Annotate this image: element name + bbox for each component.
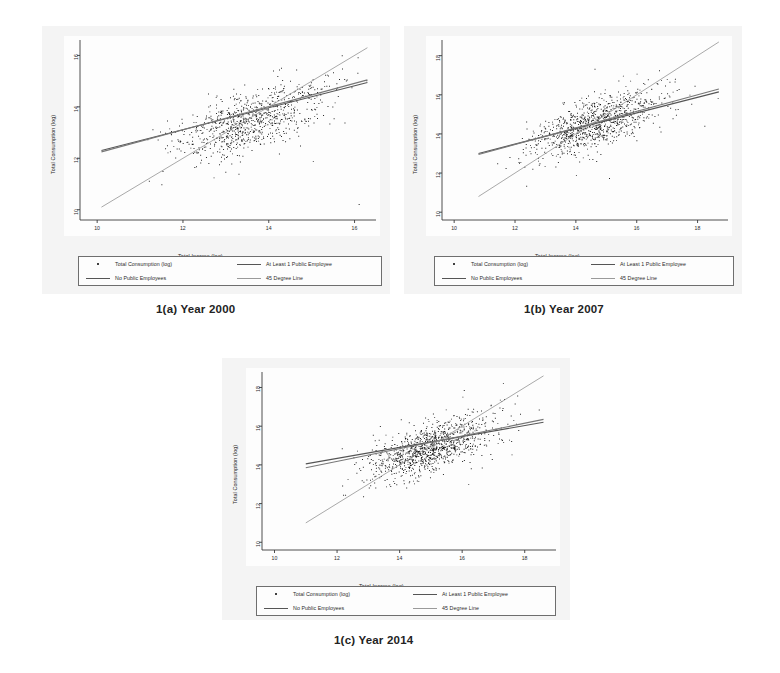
x-tick-label: 12 bbox=[180, 225, 186, 231]
legend-label: At Least 1 Public Employee bbox=[620, 261, 686, 267]
figure-panel-1a: Total Consumption (log) Total Income (lo… bbox=[42, 26, 390, 294]
x-tick-label: 14 bbox=[266, 225, 272, 231]
legend-item-45-degree-line: 45 Degree Line bbox=[406, 605, 555, 612]
scatter-points bbox=[497, 69, 718, 187]
x-tick-label: 18 bbox=[695, 225, 701, 231]
legend-item-at-least-1-public-employee: At Least 1 Public Employee bbox=[584, 261, 733, 268]
trend-line bbox=[479, 42, 719, 197]
solid-line-icon bbox=[590, 261, 616, 268]
dot-marker-icon bbox=[85, 261, 111, 268]
plot-area-1a bbox=[64, 36, 380, 236]
legend-label: Total Consumption (log) bbox=[471, 261, 528, 267]
x-tick-label: 16 bbox=[634, 225, 640, 231]
legend-item-45-degree-line: 45 Degree Line bbox=[584, 275, 733, 282]
trend-line bbox=[101, 82, 367, 150]
solid-line-icon bbox=[263, 605, 289, 612]
trend-line bbox=[101, 48, 367, 207]
legend-label: 45 Degree Line bbox=[266, 275, 303, 281]
y-tick-label: 10 bbox=[73, 209, 79, 215]
legend-item-at-least-1-public-employee: At Least 1 Public Employee bbox=[406, 591, 555, 598]
solid-line-icon bbox=[236, 261, 262, 268]
legend-label: Total Consumption (log) bbox=[293, 591, 350, 597]
legend-1c: Total Consumption (log) At Least 1 Publi… bbox=[256, 586, 556, 616]
x-tick-label: 18 bbox=[522, 555, 528, 561]
y-tick-label: 14 bbox=[435, 133, 441, 139]
light-line-icon bbox=[590, 275, 616, 282]
y-tick-label: 12 bbox=[435, 172, 441, 178]
trend-line bbox=[306, 376, 544, 523]
y-tick-label: 16 bbox=[435, 94, 441, 100]
dot-marker-icon bbox=[263, 591, 289, 598]
legend-label: No Public Employees bbox=[471, 275, 522, 281]
y-axis-label-1c: Total Consumption (log) bbox=[232, 445, 238, 504]
legend-item-no-public-employees: No Public Employees bbox=[257, 605, 406, 612]
x-tick-label: 14 bbox=[573, 225, 579, 231]
legend-item-total-consumption: Total Consumption (log) bbox=[435, 261, 584, 268]
figure-root: Total Consumption (log) Total Income (lo… bbox=[0, 0, 780, 673]
legend-1b: Total Consumption (log) At Least 1 Publi… bbox=[434, 256, 734, 286]
solid-line-icon bbox=[85, 275, 111, 282]
scatter-canvas-1b bbox=[426, 36, 732, 236]
plot-area-1b bbox=[426, 36, 732, 236]
legend-label: No Public Employees bbox=[293, 605, 344, 611]
legend-label: At Least 1 Public Employee bbox=[442, 591, 508, 597]
legend-1a: Total Consumption (log) At Least 1 Publi… bbox=[78, 256, 382, 286]
x-tick-label: 10 bbox=[451, 225, 457, 231]
y-axis-label-1b: Total Consumption (log) bbox=[412, 115, 418, 174]
x-tick-label: 14 bbox=[397, 555, 403, 561]
legend-item-total-consumption: Total Consumption (log) bbox=[257, 591, 406, 598]
caption-1c: 1(c) Year 2014 bbox=[334, 634, 413, 646]
dot-marker-icon bbox=[441, 261, 467, 268]
x-tick-label: 10 bbox=[94, 225, 100, 231]
figure-panel-1b: Total Consumption (log) Total Income (lo… bbox=[404, 26, 742, 294]
legend-label: No Public Employees bbox=[115, 275, 166, 281]
caption-1b: 1(b) Year 2007 bbox=[524, 303, 604, 315]
solid-line-icon bbox=[441, 275, 467, 282]
legend-item-no-public-employees: No Public Employees bbox=[435, 275, 584, 282]
x-tick-label: 12 bbox=[334, 555, 340, 561]
y-tick-label: 10 bbox=[255, 541, 261, 547]
y-tick-label: 10 bbox=[435, 211, 441, 217]
legend-label: 45 Degree Line bbox=[620, 275, 657, 281]
solid-line-icon bbox=[412, 591, 438, 598]
light-line-icon bbox=[412, 605, 438, 612]
caption-1a: 1(a) Year 2000 bbox=[156, 303, 235, 315]
legend-label: At Least 1 Public Employee bbox=[266, 261, 332, 267]
x-tick-label: 16 bbox=[459, 555, 465, 561]
y-tick-label: 12 bbox=[73, 158, 79, 164]
x-tick-label: 16 bbox=[352, 225, 358, 231]
legend-item-45-degree-line: 45 Degree Line bbox=[230, 275, 381, 282]
y-tick-label: 14 bbox=[73, 106, 79, 112]
legend-item-at-least-1-public-employee: At Least 1 Public Employee bbox=[230, 261, 381, 268]
y-tick-label: 18 bbox=[435, 55, 441, 61]
y-tick-label: 18 bbox=[255, 387, 261, 393]
plot-area-1c bbox=[246, 368, 560, 566]
legend-item-no-public-employees: No Public Employees bbox=[79, 275, 230, 282]
y-tick-label: 12 bbox=[255, 503, 261, 509]
x-tick-label: 12 bbox=[512, 225, 518, 231]
y-tick-label: 16 bbox=[255, 425, 261, 431]
scatter-canvas-1c bbox=[246, 368, 560, 566]
light-line-icon bbox=[236, 275, 262, 282]
y-axis-label-1a: Total Consumption (log) bbox=[50, 115, 56, 174]
trend-line bbox=[101, 80, 367, 152]
trend-line bbox=[306, 419, 544, 467]
legend-label: Total Consumption (log) bbox=[115, 261, 172, 267]
y-tick-label: 16 bbox=[73, 55, 79, 61]
figure-panel-1c: Total Consumption (log) Total Income (lo… bbox=[222, 358, 570, 620]
legend-item-total-consumption: Total Consumption (log) bbox=[79, 261, 230, 268]
x-tick-label: 10 bbox=[272, 555, 278, 561]
y-tick-label: 14 bbox=[255, 464, 261, 470]
scatter-canvas-1a bbox=[64, 36, 380, 236]
legend-label: 45 Degree Line bbox=[442, 605, 479, 611]
trend-line bbox=[479, 89, 719, 155]
